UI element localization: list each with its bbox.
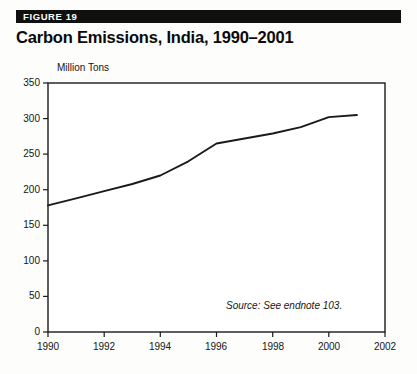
x-tick-label: 1994 <box>140 341 180 352</box>
figure-page: FIGURE 19 Carbon Emissions, India, 1990–… <box>0 0 417 374</box>
source-note: Source: See endnote 103. <box>226 300 342 311</box>
y-tick-label: 150 <box>14 219 40 230</box>
chart-plot-area: Million Tons <box>0 0 417 374</box>
x-tick-label: 1992 <box>84 341 124 352</box>
y-tick-label: 0 <box>14 326 40 337</box>
x-tick-label: 2000 <box>309 341 349 352</box>
x-tick-marks <box>48 332 385 337</box>
x-tick-label: 2002 <box>365 341 405 352</box>
x-tick-label: 1998 <box>253 341 293 352</box>
x-tick-label: 1990 <box>28 341 68 352</box>
y-tick-label: 100 <box>14 255 40 266</box>
chart-svg <box>0 0 417 374</box>
y-tick-label: 350 <box>14 77 40 88</box>
y-tick-label: 300 <box>14 113 40 124</box>
x-tick-label: 1996 <box>196 341 236 352</box>
y-tick-label: 200 <box>14 184 40 195</box>
y-tick-label: 50 <box>14 290 40 301</box>
plot-frame <box>48 83 385 332</box>
y-tick-marks <box>43 83 48 332</box>
y-tick-label: 250 <box>14 148 40 159</box>
